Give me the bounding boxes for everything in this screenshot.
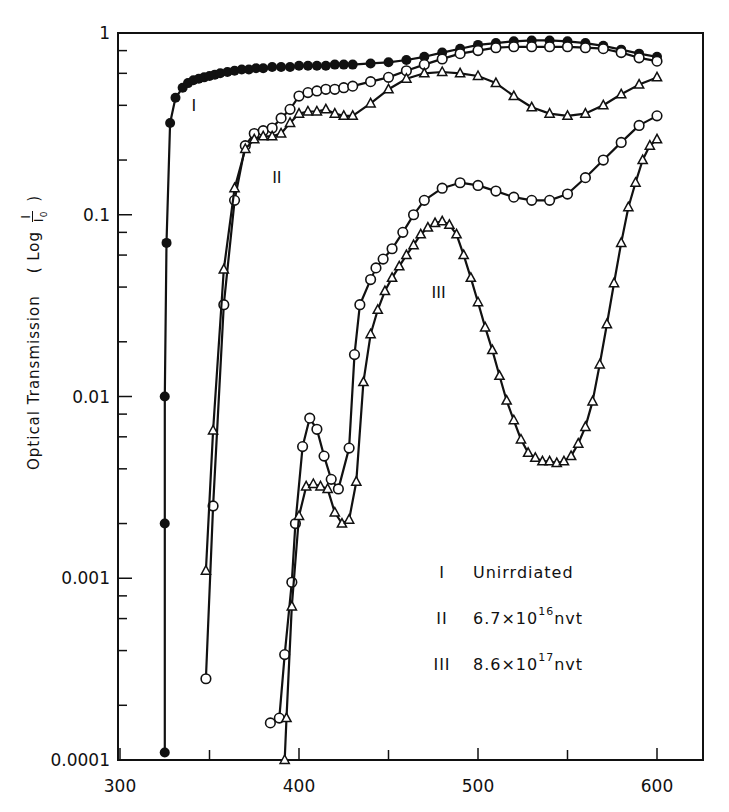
legend-id: III — [433, 655, 450, 674]
open-circle-marker — [366, 77, 376, 87]
filled-circle-marker — [160, 747, 170, 757]
open-circle-marker — [527, 196, 537, 206]
open-circle-marker — [634, 53, 644, 63]
filled-circle-marker — [160, 519, 170, 529]
y-tick-label: 0.0001 — [51, 750, 110, 770]
filled-circle-marker — [170, 93, 180, 103]
legend-label: 6.7×1016nvt — [473, 605, 583, 628]
open-circle-marker — [634, 121, 644, 131]
open-circle-marker — [334, 484, 344, 494]
open-triangle-marker — [473, 297, 482, 306]
open-triangle-marker — [609, 278, 618, 287]
open-circle-marker — [563, 42, 573, 52]
y-tick-label: 0.1 — [83, 205, 110, 225]
open-triangle-marker — [438, 216, 447, 225]
curve-label-i: I — [192, 96, 197, 115]
open-circle-marker — [420, 196, 430, 206]
open-circle-marker — [280, 650, 290, 660]
open-circle-marker — [581, 173, 591, 183]
open-triangle-marker — [652, 72, 661, 81]
legend-entry-ii: II6.7×1016nvt — [436, 605, 583, 628]
open-triangle-marker — [602, 319, 611, 328]
open-circle-marker — [652, 111, 662, 121]
open-circle-marker — [455, 178, 465, 188]
open-circle-marker — [437, 183, 447, 193]
y-tick-label: 0.001 — [61, 568, 110, 588]
open-circle-marker — [305, 413, 315, 423]
open-triangle-marker — [459, 250, 468, 259]
filled-circle-marker — [401, 55, 411, 65]
open-triangle-marker — [366, 329, 375, 338]
open-circle-marker — [599, 44, 609, 54]
legend-entry-i: IUnirrdiated — [439, 563, 573, 582]
open-circle-marker — [201, 674, 211, 684]
filled-circle-marker — [165, 118, 175, 128]
legend-entry-iii: III8.6×1017nvt — [433, 651, 583, 674]
open-circle-marker — [350, 350, 360, 360]
open-circle-marker — [371, 263, 381, 273]
open-circle-marker — [285, 105, 295, 115]
y-axis-label-fraction: I I0 — [20, 211, 50, 223]
open-triangle-marker — [516, 434, 525, 443]
open-circle-marker — [437, 54, 447, 64]
open-circle-marker — [366, 275, 376, 285]
open-triangle-marker — [527, 102, 536, 111]
open-circle-marker — [599, 155, 609, 165]
open-circle-marker — [355, 300, 365, 310]
open-circle-marker — [387, 244, 397, 254]
open-circle-marker — [616, 48, 626, 58]
open-triangle-marker — [574, 439, 583, 448]
open-circle-marker — [319, 451, 329, 461]
open-circle-marker — [312, 86, 322, 96]
open-triangle-marker — [502, 396, 511, 405]
filled-circle-marker — [339, 60, 349, 70]
open-circle-marker — [303, 88, 313, 98]
open-circle-marker — [545, 42, 555, 52]
open-circle-marker — [509, 42, 519, 52]
open-circle-marker — [491, 186, 501, 196]
open-circle-marker — [652, 56, 662, 66]
data-series — [160, 35, 662, 763]
open-circle-marker — [339, 83, 349, 93]
series-line — [206, 72, 657, 571]
plot-frame — [118, 33, 703, 760]
open-circle-marker — [509, 192, 519, 202]
filled-circle-marker — [276, 62, 286, 72]
open-triangle-marker — [509, 91, 518, 100]
series-i-unirrdiated — [160, 35, 662, 757]
open-triangle-marker — [352, 477, 361, 486]
x-tick-label: 300 — [104, 776, 136, 796]
x-tick-label: 400 — [283, 776, 315, 796]
legend-id: I — [439, 563, 445, 582]
filled-circle-marker — [303, 61, 313, 71]
curve-label-ii: II — [272, 168, 281, 187]
filled-circle-marker — [294, 61, 304, 71]
x-tick-label: 500 — [462, 776, 494, 796]
open-circle-marker — [266, 718, 276, 728]
open-triangle-marker — [373, 305, 382, 314]
filled-circle-marker — [321, 61, 331, 71]
legend-id: II — [436, 609, 447, 628]
filled-circle-marker — [285, 62, 295, 72]
open-circle-marker — [344, 443, 354, 453]
legend-label: 8.6×1017nvt — [473, 651, 583, 674]
series-ii-triangles — [201, 67, 661, 574]
y-axis-label-close: ) — [25, 195, 43, 202]
open-circle-marker — [230, 196, 240, 206]
open-triangle-marker — [488, 345, 497, 354]
open-circle-marker — [581, 43, 591, 53]
open-circle-marker — [312, 424, 322, 434]
open-triangle-marker — [617, 238, 626, 247]
y-axis-label: Optical Transmission( Log I I0 ) — [20, 195, 50, 470]
series-line — [206, 47, 657, 679]
open-triangle-marker — [638, 155, 647, 164]
x-tick-label: 600 — [641, 776, 673, 796]
filled-circle-marker — [258, 63, 268, 73]
open-circle-marker — [527, 42, 537, 52]
y-axis-label-main: Optical Transmission — [25, 295, 43, 470]
open-triangle-marker — [359, 377, 368, 386]
open-triangle-marker — [495, 371, 504, 380]
open-triangle-marker — [201, 566, 210, 575]
open-triangle-marker — [652, 134, 661, 143]
series-iii-circles — [266, 111, 662, 728]
